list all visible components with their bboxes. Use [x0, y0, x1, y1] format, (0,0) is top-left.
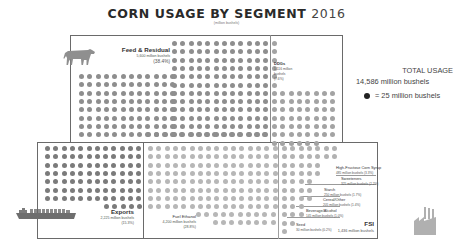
dot [87, 196, 92, 201]
feed-label: Feed & Residual [112, 46, 170, 53]
cargo-ship-icon [16, 207, 78, 221]
dot [205, 91, 210, 96]
dot [255, 124, 260, 129]
dot [95, 179, 100, 184]
dot [87, 154, 92, 159]
dot [231, 146, 236, 151]
ddgs-divider [270, 35, 271, 143]
dot [214, 116, 219, 121]
dot [79, 74, 84, 79]
dot [165, 154, 170, 159]
starch-label-group: Starch 250 million bushels (1.7%) [324, 187, 361, 197]
dot [156, 163, 161, 168]
dot [129, 107, 134, 112]
dot [62, 171, 67, 176]
dot [272, 41, 277, 46]
cereal-value: 205 million bushels (1.4%) [323, 203, 360, 207]
dot [221, 132, 226, 137]
dot [197, 83, 202, 88]
dot [324, 146, 329, 151]
dot [314, 116, 319, 121]
feed-pct: (38.4%) [112, 59, 170, 64]
dot [165, 179, 170, 184]
beverage-value: 145 million bushels (1.0%) [306, 214, 343, 218]
dot [53, 188, 58, 193]
dot [256, 163, 261, 168]
dot [256, 204, 261, 209]
dot [247, 91, 252, 96]
dot [162, 74, 167, 79]
dot [223, 188, 228, 193]
dot [162, 99, 167, 104]
dot [196, 212, 201, 217]
dot [181, 196, 186, 201]
dot [297, 124, 302, 129]
dot [189, 83, 194, 88]
dot [330, 116, 335, 121]
dot [214, 124, 219, 129]
dot [45, 163, 50, 168]
dot [255, 58, 260, 63]
dot [189, 66, 194, 71]
dot [222, 116, 227, 121]
dot [70, 163, 75, 168]
dot [315, 163, 320, 168]
dot [198, 179, 203, 184]
exports-divider [143, 142, 144, 239]
dot [273, 154, 278, 159]
dot [112, 116, 117, 121]
dot [238, 83, 243, 88]
dot [247, 41, 252, 46]
dot [62, 154, 67, 159]
dot [239, 163, 244, 168]
dot [96, 91, 101, 96]
dot [271, 212, 276, 217]
dot [255, 116, 260, 121]
dot [330, 91, 335, 96]
dot [205, 83, 210, 88]
dot [297, 91, 302, 96]
dot [79, 91, 84, 96]
dot [206, 196, 211, 201]
dot [145, 116, 150, 121]
beverage-label: Beverage/Alcohol [306, 208, 343, 213]
dot [222, 83, 227, 88]
dot [189, 99, 194, 104]
dot [307, 188, 312, 193]
dot [230, 58, 235, 63]
dot [205, 58, 210, 63]
dot [62, 188, 67, 193]
dot [163, 132, 168, 137]
dot [104, 124, 109, 129]
dot [45, 171, 50, 176]
dot [121, 99, 126, 104]
dot [190, 196, 195, 201]
chart-subtitle: (million bushels) [0, 21, 453, 25]
dot [129, 99, 134, 104]
dot [148, 163, 153, 168]
dot [272, 83, 277, 88]
dot [255, 41, 260, 46]
dot [79, 116, 84, 121]
dot [197, 91, 202, 96]
dot [213, 212, 218, 217]
dot [79, 124, 84, 129]
dot [248, 154, 253, 159]
dot [196, 132, 201, 137]
dot [170, 91, 175, 96]
dot [87, 179, 92, 184]
dot [154, 124, 159, 129]
total-usage-value: 14,586 million bushels [356, 77, 429, 86]
dot [230, 66, 235, 71]
beverage-label-group: Beverage/Alcohol 145 million bushels (1.… [306, 208, 343, 218]
dot [214, 188, 219, 193]
dot [214, 49, 219, 54]
dot [95, 146, 100, 151]
dot [255, 66, 260, 71]
dot [148, 171, 153, 176]
dot [189, 74, 194, 79]
dot [95, 163, 100, 168]
dot [222, 99, 227, 104]
dot [53, 163, 58, 168]
hfcs-label: High-Fructose Corn Syrup [336, 165, 381, 170]
